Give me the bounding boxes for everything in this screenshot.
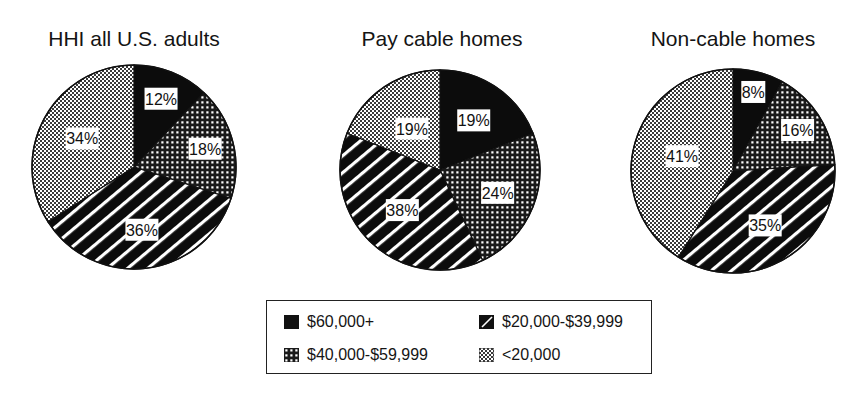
slice-label: 38% bbox=[386, 202, 418, 219]
legend-label: $60,000+ bbox=[307, 313, 374, 331]
legend-item-60k-plus: $60,000+ bbox=[284, 313, 374, 331]
slice-label: 36% bbox=[126, 222, 158, 239]
solid-black-swatch-icon bbox=[284, 315, 299, 329]
pie-non-cable: 8%16%35%41% bbox=[631, 69, 835, 273]
slice-label: 18% bbox=[189, 141, 221, 158]
legend-item-40k-60k: $40,000-$59,999 bbox=[284, 346, 428, 364]
slice-label: 34% bbox=[66, 130, 98, 147]
slice-label: 16% bbox=[782, 122, 814, 139]
fine-checker-swatch-icon bbox=[479, 348, 494, 362]
slice-label: 35% bbox=[749, 217, 781, 234]
legend: $60,000+ $20,000-$39,999 $40,000-$59,999… bbox=[266, 300, 652, 374]
pie-pay-cable: 19%24%38%19% bbox=[340, 70, 540, 270]
legend-label: $40,000-$59,999 bbox=[307, 346, 428, 364]
slice-label: 41% bbox=[666, 148, 698, 165]
diagonal-stripes-swatch-icon bbox=[479, 315, 494, 329]
slice-label: 19% bbox=[396, 121, 428, 138]
legend-label: $20,000-$39,999 bbox=[502, 313, 623, 331]
slice-label: 12% bbox=[145, 91, 177, 108]
slice-label: 24% bbox=[482, 185, 514, 202]
coarse-dots-swatch-icon bbox=[284, 348, 299, 362]
pie-all-adults: 12%18%36%34% bbox=[32, 65, 236, 269]
legend-item-under-20k: <20,000 bbox=[479, 346, 560, 364]
slice-label: 8% bbox=[742, 84, 765, 101]
legend-label: <20,000 bbox=[502, 346, 560, 364]
legend-item-20k-40k: $20,000-$39,999 bbox=[479, 313, 623, 331]
slice-label: 19% bbox=[458, 112, 490, 129]
